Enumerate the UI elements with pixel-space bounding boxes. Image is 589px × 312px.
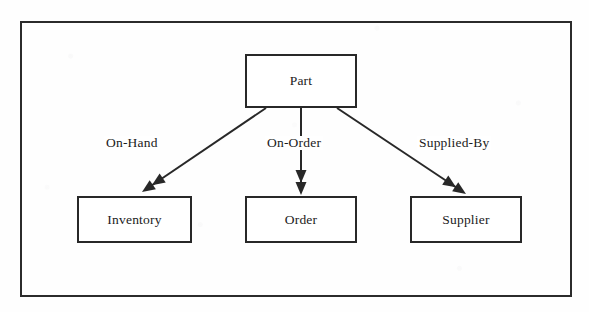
arrowhead-supplied-by-ghost <box>442 176 456 188</box>
arrowhead-on-order-ghost <box>296 170 307 183</box>
entity-label-part: Part <box>290 74 313 88</box>
arrowhead-on-hand <box>142 180 156 192</box>
edge-layer <box>0 0 589 312</box>
edge-line-on-hand <box>148 108 266 188</box>
edge-label-on-order: On-Order <box>265 136 323 150</box>
entity-label-supplier: Supplier <box>442 213 489 227</box>
entity-label-order: Order <box>285 213 317 227</box>
arrowhead-on-hand-ghost <box>152 173 166 185</box>
edge-on-order <box>296 108 307 195</box>
arrowhead-supplied-by <box>452 182 466 194</box>
entity-node-supplier[interactable]: Supplier <box>410 196 522 243</box>
edge-on-hand <box>142 108 266 192</box>
entity-node-inventory[interactable]: Inventory <box>77 196 192 243</box>
entity-node-order[interactable]: Order <box>245 196 357 243</box>
edge-supplied-by <box>337 108 466 194</box>
arrowhead-on-order <box>296 182 307 195</box>
entity-node-part[interactable]: Part <box>245 54 357 108</box>
diagram-canvas: Part Inventory Order Supplier On-Hand On… <box>0 0 589 312</box>
edge-label-supplied-by: Supplied-By <box>417 136 491 150</box>
entity-label-inventory: Inventory <box>107 213 161 227</box>
edge-label-on-hand: On-Hand <box>104 136 160 150</box>
